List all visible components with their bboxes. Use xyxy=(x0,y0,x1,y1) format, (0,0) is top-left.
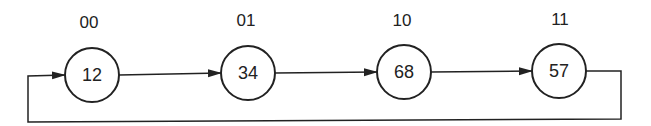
node-value: 34 xyxy=(238,63,258,84)
node-address-label: 11 xyxy=(551,10,569,30)
arrow-11-to-00-loop xyxy=(28,71,621,122)
linked-list-diagram: 00 01 10 11 12 34 68 57 xyxy=(0,0,651,126)
arrow-10-to-11 xyxy=(431,71,532,72)
node-value: 68 xyxy=(394,62,414,83)
node-address-label: 10 xyxy=(393,11,412,31)
node-address-label: 01 xyxy=(237,11,256,31)
node-value: 12 xyxy=(82,65,102,86)
arrow-00-to-01 xyxy=(119,73,221,75)
arrow-01-to-10 xyxy=(275,72,377,73)
node-value: 57 xyxy=(549,61,569,82)
node-address-label: 00 xyxy=(80,13,99,33)
